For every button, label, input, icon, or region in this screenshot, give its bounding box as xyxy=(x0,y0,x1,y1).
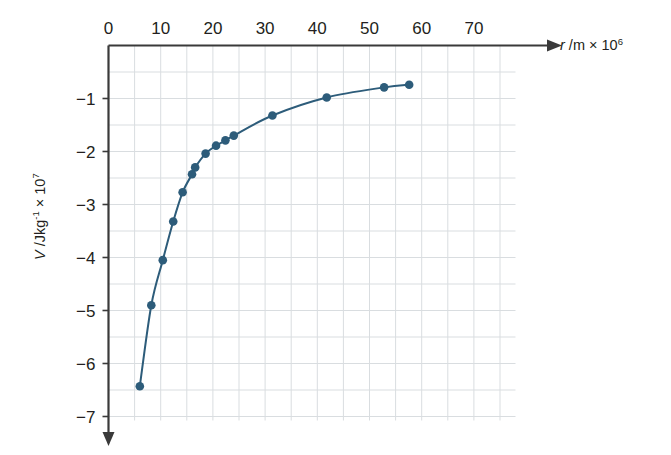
data-point xyxy=(169,217,178,226)
y-tick-label-7: −7 xyxy=(76,408,95,427)
x-tick-label-30: 30 xyxy=(256,19,275,38)
x-axis-tick-labels: 010203040506070 xyxy=(104,19,484,38)
data-point xyxy=(221,136,230,145)
axes xyxy=(103,40,563,447)
data-point xyxy=(380,83,389,92)
data-point xyxy=(147,301,156,310)
y-axis-title-exp2: 7 xyxy=(30,173,41,178)
x-tick-label-70: 70 xyxy=(464,19,483,38)
series-line xyxy=(140,85,409,387)
y-tick-label-1: −1 xyxy=(76,90,95,109)
y-tick-label-5: −5 xyxy=(76,302,95,321)
data-point xyxy=(158,256,167,265)
y-tick-label-6: −6 xyxy=(76,355,95,374)
y-axis-title-exp1: -1 xyxy=(30,211,41,219)
svg-text:r /m × 106: r /m × 106 xyxy=(560,36,623,53)
x-tick-label-50: 50 xyxy=(360,19,379,38)
y-axis-tick-labels: −1−2−3−4−5−6−7 xyxy=(76,90,95,427)
data-point xyxy=(136,382,145,391)
data-point xyxy=(405,80,414,89)
data-point xyxy=(212,141,221,150)
x-axis-title-unit: /m × 10 xyxy=(565,37,618,53)
data-point xyxy=(268,111,277,120)
x-tick-label-20: 20 xyxy=(203,19,222,38)
x-tick-label-0: 0 xyxy=(104,19,113,38)
data-point xyxy=(191,163,200,172)
y-axis-title-unit: /Jkg xyxy=(32,220,48,251)
y-axis-title-mid: × 10 xyxy=(32,179,48,212)
chart-canvas: 010203040506070 −1−2−3−4−5−6−7 r /m × 10… xyxy=(0,0,671,455)
y-axis-title: V /Jkg-1 × 107 xyxy=(30,173,48,260)
x-tick-label-60: 60 xyxy=(412,19,431,38)
x-tick-label-40: 40 xyxy=(308,19,327,38)
data-point xyxy=(229,131,238,140)
svg-text:V /Jkg-1 × 107: V /Jkg-1 × 107 xyxy=(30,173,48,260)
data-point xyxy=(201,149,210,158)
data-series xyxy=(136,80,414,390)
y-tick-label-4: −4 xyxy=(76,249,95,268)
chart-figure: 010203040506070 −1−2−3−4−5−6−7 r /m × 10… xyxy=(0,0,671,455)
data-point xyxy=(322,93,331,102)
x-axis-title-exponent: 6 xyxy=(618,36,623,47)
x-tick-label-10: 10 xyxy=(151,19,170,38)
x-axis-title: r /m × 106 xyxy=(560,36,623,53)
y-tick-label-3: −3 xyxy=(76,196,95,215)
data-point xyxy=(178,188,187,197)
y-tick-label-2: −2 xyxy=(76,143,95,162)
